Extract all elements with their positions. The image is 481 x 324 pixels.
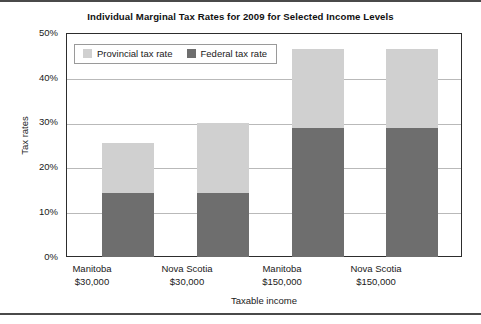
x-axis-title: Taxable income (66, 295, 462, 306)
bar-novascotia-30000 (197, 123, 249, 257)
chart-legend: Provincial tax rate Federal tax rate (74, 44, 277, 64)
bar-segment-federal (292, 128, 344, 257)
y-axis-title: Tax rates (19, 96, 30, 176)
x-tick-income: $150,000 (306, 275, 446, 288)
y-tick-0: 0% (14, 252, 58, 262)
legend-swatch-provincial-icon (83, 49, 92, 58)
bar-segment-provincial (292, 49, 344, 128)
bar-segment-federal (102, 193, 154, 257)
x-tick-novascotia-150000: Nova Scotia $150,000 (306, 262, 446, 288)
bar-segment-federal (197, 193, 249, 257)
bar-manitoba-30000 (102, 143, 154, 257)
bar-segment-provincial (386, 49, 438, 128)
bar-series-layer (66, 33, 462, 257)
bar-segment-provincial (197, 123, 249, 193)
legend-entry-federal: Federal tax rate (187, 48, 268, 59)
y-tick-40: 40% (14, 73, 58, 83)
x-tick-province: Nova Scotia (306, 262, 446, 275)
legend-label-federal: Federal tax rate (201, 48, 268, 59)
y-tick-10: 10% (14, 207, 58, 217)
legend-label-provincial: Provincial tax rate (97, 48, 173, 59)
bar-manitoba-150000 (292, 49, 344, 257)
figure-container: Individual Marginal Tax Rates for 2009 f… (0, 0, 481, 324)
bar-segment-federal (386, 128, 438, 257)
legend-entry-provincial: Provincial tax rate (83, 48, 173, 59)
y-tick-50: 50% (14, 28, 58, 38)
bar-novascotia-150000 (386, 49, 438, 257)
bar-segment-provincial (102, 143, 154, 193)
legend-swatch-federal-icon (187, 49, 196, 58)
